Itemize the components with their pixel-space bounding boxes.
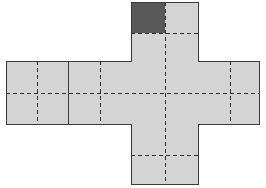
cube-net-svg — [0, 0, 266, 188]
cube-net-figure — [0, 0, 266, 188]
shaded-quarter-square — [132, 3, 165, 33]
